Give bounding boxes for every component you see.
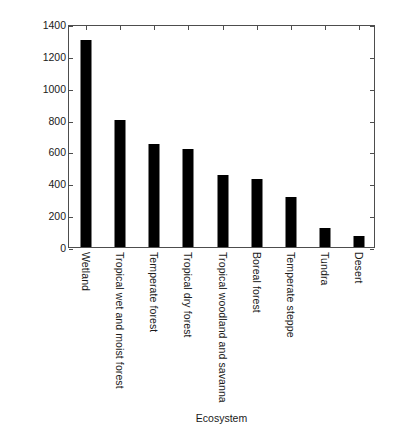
y-axis-tick-mark — [370, 90, 374, 91]
y-axis-tick-mark — [370, 26, 374, 27]
x-axis-category-label-text: Wetland — [79, 252, 92, 291]
x-axis-tick-mark — [223, 26, 224, 30]
y-axis-tick-label: 600 — [26, 147, 66, 158]
x-axis-category-label: Wetland — [79, 252, 93, 402]
x-axis-category-label: Desert — [352, 252, 366, 402]
bar — [183, 149, 194, 247]
y-axis-tick-label: 0 — [26, 243, 66, 254]
x-axis-category-label-text: Tropical dry forest — [181, 252, 194, 338]
x-axis-category-label: Boreal forest — [250, 252, 264, 402]
x-axis-category-label-text: Boreal forest — [250, 252, 263, 313]
x-axis-category-label: Tropical dry forest — [181, 252, 195, 402]
x-axis-category-label-text: Tropical woodland and savanna — [216, 252, 229, 403]
y-axis-tick-mark — [69, 249, 73, 250]
x-axis-category-label-text: Tundra — [318, 252, 331, 285]
bar — [251, 179, 262, 247]
x-axis-tick-mark — [86, 26, 87, 30]
x-axis-tick-mark — [291, 26, 292, 30]
y-axis-tick-label: 1000 — [26, 84, 66, 95]
y-axis-tick-mark — [370, 249, 374, 250]
bar — [285, 197, 296, 247]
x-axis-category-label-text: Temperate steppe — [284, 252, 297, 338]
y-axis-tick-mark — [370, 122, 374, 123]
y-axis-tick-mark — [69, 26, 73, 27]
x-axis-category-label: Tropical wet and moist forest — [113, 252, 127, 402]
y-axis-tick-mark — [370, 153, 374, 154]
y-axis-tick-mark — [69, 90, 73, 91]
bar — [115, 120, 126, 247]
y-axis-tick-mark — [69, 185, 73, 186]
y-axis-tick-mark — [69, 153, 73, 154]
y-axis-tick-label: 200 — [26, 211, 66, 222]
y-axis-tick-label: 1400 — [26, 20, 66, 31]
bar — [217, 175, 228, 247]
x-axis-tick-mark — [257, 26, 258, 30]
x-axis-tick-mark — [188, 26, 189, 30]
bar — [149, 144, 160, 247]
x-axis-title: Ecosystem — [68, 412, 375, 424]
x-axis-tick-mark — [325, 26, 326, 30]
x-axis-category-label: Tropical woodland and savanna — [216, 252, 230, 402]
y-axis-tick-mark — [69, 122, 73, 123]
bar — [319, 228, 330, 247]
x-axis-tick-mark — [359, 26, 360, 30]
y-axis-tick-mark — [69, 217, 73, 218]
y-axis-tick-label: 1200 — [26, 52, 66, 63]
bar — [353, 236, 364, 247]
x-axis-category-label: Temperate steppe — [284, 252, 298, 402]
x-axis-tick-mark — [120, 26, 121, 30]
y-axis-tick-mark — [370, 58, 374, 59]
x-axis-tick-mark — [154, 26, 155, 30]
y-axis-tick-mark — [370, 185, 374, 186]
x-axis-category-label-text: Desert — [352, 252, 365, 284]
x-axis-category-label-text: Temperate forest — [147, 252, 160, 332]
x-axis-category-label: Temperate forest — [147, 252, 161, 402]
y-axis-tick-mark — [370, 217, 374, 218]
y-axis-tick-label: 800 — [26, 116, 66, 127]
x-axis-category-label: Tundra — [318, 252, 332, 402]
plot-area — [68, 25, 375, 248]
y-axis-tick-label: 400 — [26, 179, 66, 190]
bar — [81, 40, 92, 247]
chart-figure: Net primary production, g C m−2 year−1 0… — [0, 0, 410, 440]
y-axis-tick-mark — [69, 58, 73, 59]
x-axis-category-label-text: Tropical wet and moist forest — [113, 252, 126, 389]
